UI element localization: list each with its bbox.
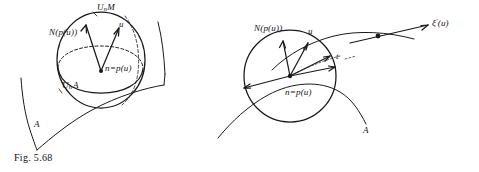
left-surface-back-edge — [158, 22, 165, 74]
right-label-tangent-vector: u — [308, 27, 313, 36]
left-normal-vector-arrow — [86, 25, 101, 71]
right-normal-vector-arrow — [283, 41, 290, 76]
right-derivative-arrowhead — [421, 25, 428, 30]
left-label-surface-a: A — [34, 120, 40, 129]
figure-caption: Fig. 5.68 — [14, 152, 53, 163]
right-label-center-point: n=p(u) — [285, 88, 312, 97]
right-vector-right-arrow — [290, 67, 335, 76]
right-label-parameter-t: t — [336, 52, 339, 61]
right-parameter-leader-t — [345, 56, 356, 59]
right-vector-left-arrow — [244, 76, 290, 88]
left-diagram-group — [21, 12, 165, 150]
left-surface-right-edge — [164, 74, 165, 85]
left-normal-vector-arrowhead — [81, 25, 87, 33]
figure-5-68: UnM N(p(u)) u n=p(u) Un A A N(p(u)) u n=… — [0, 0, 479, 172]
right-upper-curve — [272, 32, 414, 70]
left-surface-front-edge — [37, 85, 164, 150]
right-diagram-group — [218, 25, 428, 138]
left-label-un-m: UnM — [97, 3, 115, 13]
left-label-center-point: n=p(u) — [105, 64, 132, 73]
right-derivative-arrow — [350, 25, 428, 43]
left-label-normal-vector: N(p(u)) — [49, 28, 77, 37]
right-label-curve-derivative: ξ′(u) — [432, 18, 449, 28]
right-label-surface-a: A — [363, 126, 369, 135]
left-label-tangent-vector: u — [119, 20, 124, 29]
left-surface-left-edge — [21, 78, 37, 150]
left-label-un-a: Un A — [62, 81, 79, 91]
right-label-normal-vector: N(p(u)) — [254, 24, 282, 33]
right-normal-vector-arrowhead — [280, 41, 286, 48]
